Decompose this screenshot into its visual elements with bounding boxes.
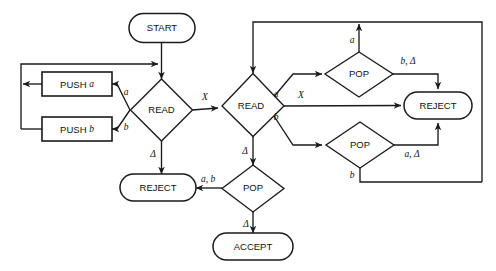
edge-read-right-x-to-reject-right bbox=[276, 106, 401, 107]
node-pop-center: POP bbox=[222, 165, 284, 212]
node-accept-label: ACCEPT bbox=[234, 241, 273, 252]
edge-label-read-left-b: b bbox=[124, 122, 129, 132]
flowchart-canvas: START READ PUSH a PUSH b REJECT READ bbox=[0, 0, 496, 271]
edge-label-read-left-delta: Δ bbox=[149, 149, 156, 159]
node-pop-top-label: POP bbox=[349, 68, 369, 79]
edge-pop-bottom-b-to-outer-rail bbox=[360, 168, 482, 182]
edge-label-read-left-x: X bbox=[201, 92, 209, 102]
node-reject-right-label: REJECT bbox=[420, 100, 457, 111]
node-pop-bottom-label: POP bbox=[350, 139, 370, 150]
node-pop-top: POP bbox=[325, 52, 393, 97]
node-push-b-label: PUSH b bbox=[60, 123, 94, 134]
edge-label-read-right-x: X bbox=[297, 90, 305, 100]
edge-label-pop-center-delta: Δ bbox=[242, 219, 249, 229]
node-pop-center-label: POP bbox=[243, 182, 263, 193]
node-push-b: PUSH b bbox=[42, 117, 112, 141]
node-reject-left-label: REJECT bbox=[140, 182, 177, 193]
edge-label-pop-center-ab: a, b bbox=[201, 174, 216, 184]
edge-label-read-right-delta: Δ bbox=[241, 146, 248, 156]
edge-pop-top-bdelta-to-reject-right bbox=[393, 74, 438, 89]
node-reject-right: REJECT bbox=[404, 92, 472, 119]
edge-label-pop-bottom-a-delta: a, Δ bbox=[404, 149, 420, 159]
node-push-a: PUSH a bbox=[42, 72, 112, 96]
edge-label-pop-top-b-delta: b, Δ bbox=[400, 56, 416, 66]
flowchart-svg: START READ PUSH a PUSH b REJECT READ bbox=[0, 0, 496, 271]
node-start-label: START bbox=[147, 22, 177, 33]
node-read-right: READ bbox=[222, 74, 284, 137]
node-accept: ACCEPT bbox=[213, 233, 293, 260]
node-pop-bottom: POP bbox=[326, 122, 394, 168]
node-reject-left: REJECT bbox=[120, 174, 196, 201]
node-read-left: READ bbox=[131, 79, 193, 141]
edge-read-right-b-to-pop-bottom bbox=[272, 113, 322, 145]
edge-label-read-left-a: a bbox=[124, 87, 129, 97]
node-read-left-label: READ bbox=[148, 104, 175, 115]
edge-read-left-x-to-read-right bbox=[192, 108, 218, 110]
edge-label-pop-bottom-b: b bbox=[350, 170, 355, 180]
edge-label-read-right-b: b bbox=[274, 112, 279, 122]
edge-read-right-a-to-pop-top bbox=[272, 74, 322, 99]
node-start: START bbox=[129, 14, 195, 43]
edge-label-read-right-a: a bbox=[274, 89, 279, 99]
edge-label-pop-top-a: a bbox=[350, 35, 355, 45]
edge-pop-bottom-adelta-to-reject-right bbox=[394, 123, 438, 145]
node-read-right-label: READ bbox=[238, 100, 265, 111]
node-push-a-label: PUSH a bbox=[60, 78, 94, 89]
